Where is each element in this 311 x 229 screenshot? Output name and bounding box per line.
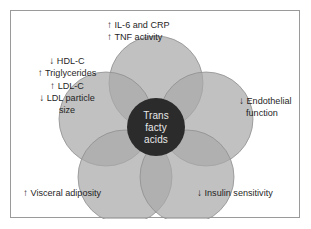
arrow-down-icon: ↓: [39, 92, 44, 103]
arrow-up-icon: ↑: [50, 80, 55, 91]
callout-lipids: ↓ HDL-C ↑ Triglycerides ↑ LDL-C ↓ LDL pa…: [21, 55, 113, 116]
venn-center-circle: [127, 98, 185, 156]
callout-line: ↑ Triglycerides: [21, 67, 113, 79]
callout-line: ↓ HDL-C: [21, 55, 113, 67]
arrow-down-icon: ↓: [239, 95, 244, 106]
callout-line: ↑ LDL-C: [21, 80, 113, 92]
callout-line: ↓ Endothelial: [239, 95, 292, 108]
callout-text: LDL particle: [47, 93, 95, 103]
arrow-up-icon: ↑: [107, 31, 112, 42]
arrow-up-icon: ↑: [23, 187, 28, 198]
callout-text: Insulin sensitivity: [205, 188, 273, 198]
arrow-down-icon: ↓: [197, 187, 202, 198]
callout-text: function: [246, 108, 278, 118]
callout-text: IL-6 and CRP: [115, 20, 170, 30]
callout-text: TNF activity: [114, 32, 162, 42]
callout-text: Endothelial: [247, 96, 292, 106]
callout-text: Triglycerides: [45, 68, 96, 78]
callout-line: ↑ IL-6 and CRP: [107, 19, 170, 31]
callout-inflammation: ↑ IL-6 and CRP ↑ TNF activity: [107, 19, 170, 44]
callout-line: function: [239, 108, 292, 120]
callout-endothelial: ↓ Endothelial function: [239, 95, 292, 120]
arrow-down-icon: ↓: [49, 55, 54, 66]
callout-insulin: ↓ Insulin sensitivity: [197, 187, 273, 199]
callout-text: size: [59, 105, 75, 115]
arrow-up-icon: ↑: [107, 19, 112, 30]
callout-text: Visceral adiposity: [31, 188, 102, 198]
callout-line: ↓ Insulin sensitivity: [197, 187, 273, 199]
callout-line: ↑ Visceral adiposity: [23, 187, 101, 199]
figure-frame: Trans facty acids ↑ IL-6 and CRP ↑ TNF a…: [10, 10, 300, 218]
callout-line: ↓ LDL particle: [21, 92, 113, 104]
callout-adiposity: ↑ Visceral adiposity: [23, 187, 101, 199]
callout-text: LDL-C: [58, 81, 84, 91]
callout-line: size: [21, 105, 113, 116]
callout-text: HDL-C: [57, 56, 85, 66]
arrow-up-icon: ↑: [38, 67, 43, 78]
callout-line: ↑ TNF activity: [107, 31, 170, 43]
